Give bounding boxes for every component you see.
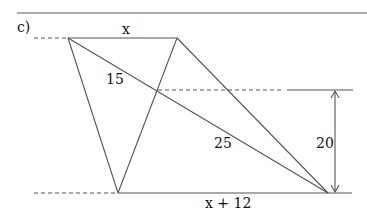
diagonal-long [68,38,328,193]
lower-segment-label: 25 [214,135,232,151]
left-leg [68,38,118,193]
part-label: c) [17,19,30,35]
right-leg [177,38,328,193]
top-side-label: x [122,21,130,37]
diagonal-short [118,38,177,193]
bottom-side-label: x + 12 [205,195,251,211]
trapezoid-diagram: c) x 15 25 20 x + 12 [0,0,367,220]
upper-segment-label: 15 [106,71,124,87]
height-label: 20 [316,135,334,151]
